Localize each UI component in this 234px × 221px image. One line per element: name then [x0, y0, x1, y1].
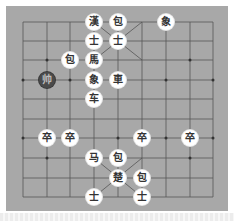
piece-black-advisor[interactable]: 士	[110, 33, 126, 49]
piece-red-soldier[interactable]: 卒	[134, 130, 150, 146]
piece-red-advisor[interactable]: 士	[86, 189, 102, 205]
piece-black-general[interactable]: 漢	[86, 14, 102, 30]
piece-black-chariot[interactable]: 車	[110, 72, 126, 88]
piece-red-soldier[interactable]: 卒	[39, 130, 55, 146]
piece-red-horse[interactable]: 马	[86, 150, 102, 166]
piece-black-advisor[interactable]: 士	[86, 33, 102, 49]
xiangqi-board[interactable]: 漢包象士士包馬帅象車车卒卒卒卒马包楚包士士	[6, 6, 228, 211]
piece-red-general[interactable]: 楚	[110, 170, 126, 186]
piece-black-elephant[interactable]: 象	[86, 72, 102, 88]
header-strip	[60, 0, 170, 4]
piece-black-cannon[interactable]: 包	[62, 52, 78, 68]
piece-black-cannon[interactable]: 包	[110, 14, 126, 30]
piece-red-advisor[interactable]: 士	[134, 189, 150, 205]
piece-black-elephant[interactable]: 象	[158, 14, 174, 30]
footer-strip	[0, 213, 234, 221]
piece-red-cannon[interactable]: 包	[134, 170, 150, 186]
piece-dark-marker[interactable]: 帅	[39, 72, 55, 88]
piece-red-soldier[interactable]: 卒	[182, 130, 198, 146]
piece-red-soldier[interactable]: 卒	[62, 130, 78, 146]
piece-red-cannon[interactable]: 包	[110, 150, 126, 166]
piece-black-horse[interactable]: 馬	[86, 52, 102, 68]
piece-red-chariot[interactable]: 车	[86, 91, 102, 107]
